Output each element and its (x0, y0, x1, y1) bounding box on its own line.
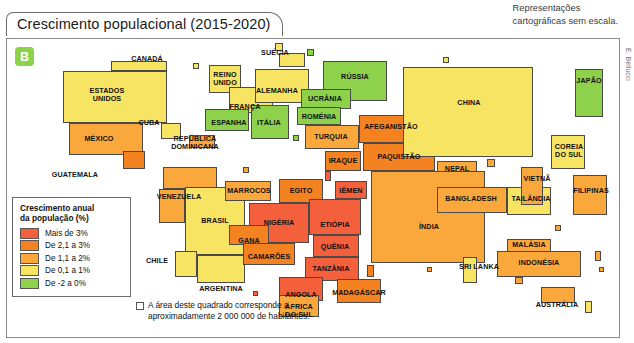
country-block (123, 151, 145, 169)
cartogram-filler-block (555, 225, 561, 231)
country-block (205, 109, 249, 131)
country-block (301, 89, 351, 109)
legend-item: De 2,1 a 3% (20, 240, 124, 251)
country-block (551, 135, 585, 169)
legend-label: De 2,1 a 3% (45, 241, 90, 250)
cartogram-filler-block (293, 135, 299, 141)
cartogram-filler-block (443, 57, 449, 63)
country-block (403, 67, 533, 157)
country-block (337, 279, 381, 303)
country-label: CHILE (146, 257, 168, 265)
unit-note-text: A área deste quadrado corresponde a apro… (148, 300, 310, 323)
legend-item: De -2 a 0% (20, 278, 124, 289)
legend-label: De 1,1 a 2% (45, 254, 90, 263)
legend-item: De 0,1 a 1% (20, 265, 124, 276)
scale-disclaimer: Representações cartográficas sem escala. (513, 2, 618, 27)
country-block (497, 251, 581, 277)
legend-swatch (20, 253, 39, 264)
cartogram-filler-block (243, 167, 249, 173)
country-block (371, 171, 485, 263)
cartogram-filler-block (253, 291, 258, 296)
cartogram-filler-block (367, 265, 374, 277)
cartogram-filler-block (427, 267, 432, 272)
legend: Crescimento anual da população (%) Mais … (12, 197, 131, 297)
cartogram-filler-block (487, 159, 495, 167)
country-block (159, 189, 185, 223)
country-block (161, 123, 181, 139)
legend-swatch (20, 265, 39, 276)
country-block (163, 167, 217, 189)
country-block (251, 105, 289, 139)
country-block (63, 71, 167, 123)
legend-rows: Mais de 3%De 2,1 a 3%De 1,1 a 2%De 0,1 a… (20, 228, 124, 289)
legend-swatch (20, 228, 39, 239)
country-label: ARGENTINA (199, 285, 243, 293)
country-block (175, 251, 197, 277)
country-block (279, 53, 305, 67)
country-block (297, 107, 341, 125)
cartogram-page: Crescimento populacional (2015-2020) Rep… (0, 0, 634, 343)
country-block (229, 225, 269, 245)
legend-item: Mais de 3% (20, 228, 124, 239)
country-block (197, 255, 245, 283)
legend-swatch (20, 240, 39, 251)
unit-square-icon (136, 302, 144, 310)
country-label: GUATEMALA (52, 171, 98, 179)
page-title: Crescimento populacional (2015-2020) (6, 12, 283, 36)
unit-note: A área deste quadrado corresponde a apro… (136, 300, 310, 323)
legend-item: De 1,1 a 2% (20, 253, 124, 264)
country-block (225, 181, 271, 201)
cartogram-filler-block (595, 251, 601, 261)
legend-title: Crescimento anual da população (%) (20, 203, 124, 224)
cartogram-filler-block (325, 171, 331, 181)
cartogram-filler-block (193, 63, 199, 69)
country-block (305, 125, 359, 149)
cartogram-filler-block (275, 43, 283, 51)
cartogram-filler-block (585, 301, 592, 313)
legend-swatch (20, 278, 39, 289)
author-credit: E. Bellucci (625, 48, 632, 81)
country-block (325, 151, 361, 171)
figure-badge: B (15, 47, 34, 66)
legend-label: De -2 a 0% (45, 279, 86, 288)
country-block (463, 257, 477, 283)
legend-label: Mais de 3% (45, 229, 88, 238)
country-block (541, 287, 575, 303)
country-block (575, 69, 603, 117)
country-block (111, 61, 167, 71)
legend-label: De 0,1 a 1% (45, 266, 90, 275)
country-block (335, 181, 367, 199)
cartogram-filler-block (307, 49, 314, 56)
country-block (189, 135, 215, 148)
country-block (313, 235, 359, 257)
country-block (437, 187, 507, 213)
country-block (573, 175, 607, 215)
cartogram-filler-block (599, 267, 604, 272)
country-block (521, 167, 543, 205)
country-block (309, 199, 361, 235)
cartogram-filler-block (515, 277, 523, 284)
country-block (243, 243, 295, 265)
